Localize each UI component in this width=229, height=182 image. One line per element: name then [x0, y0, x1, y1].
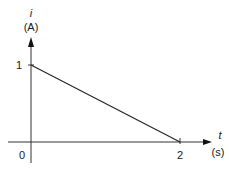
y-axis-label: i	[30, 7, 33, 19]
axes	[8, 37, 212, 163]
y-axis-unit: (A)	[24, 21, 39, 33]
y-tick-label: 1	[16, 59, 22, 71]
x-axis-unit: (s)	[212, 146, 225, 158]
x-axis-arrow-icon	[203, 139, 212, 145]
origin-label: 0	[19, 149, 25, 161]
current-vs-time-chart: i(A)t(s)021	[0, 0, 229, 182]
series-line-0	[31, 65, 180, 142]
y-axis-arrow-icon	[28, 37, 34, 47]
x-axis-label: t	[218, 129, 222, 141]
x-tick-label: 2	[177, 149, 183, 161]
